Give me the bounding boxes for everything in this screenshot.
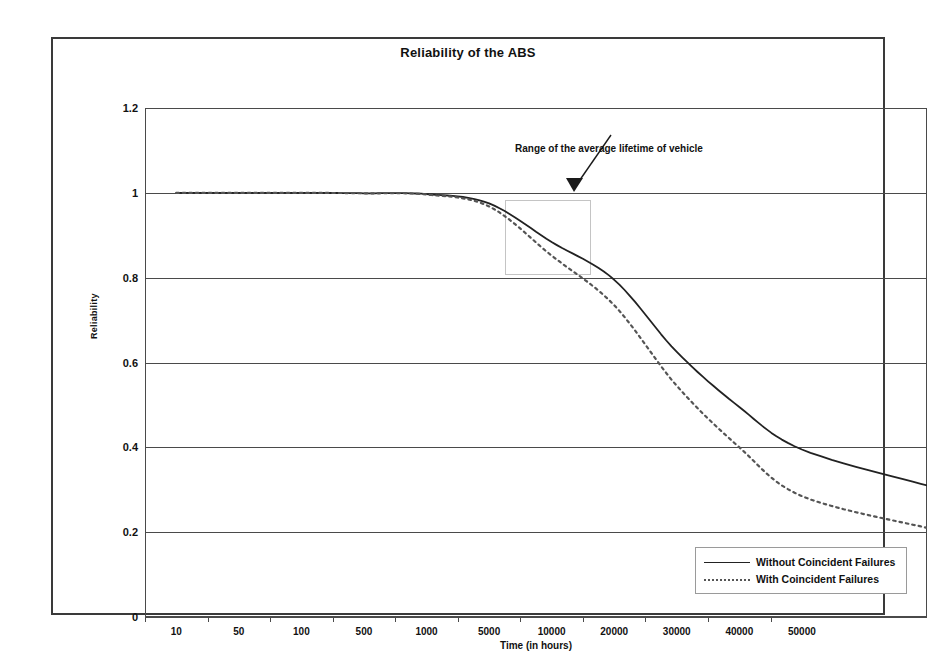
legend-swatch-solid-line-icon [704,557,750,567]
x-axis-title: Time (in hours) [145,640,927,651]
chart-legend: Without Coincident Failures With Coincid… [695,547,907,594]
legend-item-with-coincident-failures: With Coincident Failures [704,570,898,587]
x-axis-tick-label: 30000 [663,626,691,637]
x-axis-tick-mark [708,617,709,622]
x-axis-tick-label: 50000 [788,626,816,637]
x-axis-tick-mark [771,617,772,622]
x-axis-tick-mark [333,617,334,622]
y-axis-tick-label: 1.2 [123,102,138,114]
series-line-without-coincident-failures [176,193,927,486]
x-axis-tick-mark [145,617,146,622]
legend-item-without-coincident-failures: Without Coincident Failures [704,553,898,570]
legend-label: Without Coincident Failures [756,556,895,568]
gridline [145,617,927,618]
x-axis-tick-mark [270,617,271,622]
y-axis-title: Reliability [89,293,99,339]
x-axis-tick-label: 10000 [538,626,566,637]
x-axis-tick-mark [645,617,646,622]
x-axis-tick-mark [208,617,209,622]
data-curves [145,108,927,617]
x-axis-tick-label: 20000 [600,626,628,637]
x-axis-tick-label: 1000 [415,626,437,637]
range-annotation-label: Range of the average lifetime of vehicle [515,143,703,154]
x-axis-tick-mark [395,617,396,622]
x-axis-tick-mark [583,617,584,622]
x-axis-tick-label: 5000 [478,626,500,637]
x-axis-tick-label: 50 [233,626,244,637]
y-axis-tick-label: 0 [132,611,138,623]
plot-area: 00.20.40.60.811.2 1050100500100050001000… [145,108,927,617]
chart-title: Reliability of the ABS [53,45,883,60]
x-axis-tick-label: 10 [171,626,182,637]
y-axis-tick-label: 0.2 [123,526,138,538]
y-axis-tick-label: 0.8 [123,272,138,284]
y-axis-tick-label: 1 [132,187,138,199]
y-axis-tick-label: 0.6 [123,357,138,369]
x-axis-tick-label: 100 [293,626,310,637]
x-axis-tick-label: 40000 [725,626,753,637]
x-axis-tick-mark [520,617,521,622]
x-axis-tick-label: 500 [356,626,373,637]
legend-swatch-dotted-line-icon [704,574,750,584]
x-axis-tick-mark [458,617,459,622]
chart-frame: Reliability of the ABS Reliability 00.20… [51,37,885,615]
y-axis-tick-label: 0.4 [123,441,138,453]
legend-label: With Coincident Failures [756,573,879,585]
